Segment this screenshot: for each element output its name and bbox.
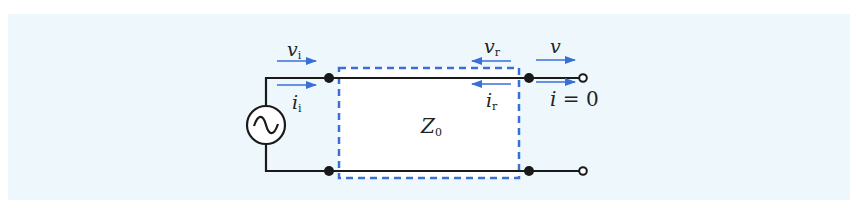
label-main: v bbox=[484, 35, 495, 57]
output-top-node bbox=[524, 73, 534, 83]
open-terminal-top bbox=[579, 74, 587, 82]
reflected-current-label: ir bbox=[486, 91, 497, 112]
label-main: Z bbox=[421, 114, 435, 138]
input-top-node bbox=[324, 73, 334, 83]
label-sub: 0 bbox=[435, 126, 442, 139]
incident-current-label: ii bbox=[292, 93, 302, 114]
ac-source-icon bbox=[247, 106, 285, 144]
reflected-voltage-label: vr bbox=[484, 37, 500, 58]
output-current-label: i = 0 bbox=[550, 89, 599, 109]
output-bottom-node bbox=[524, 166, 534, 176]
label-sub: r bbox=[495, 46, 500, 59]
output-voltage-label: v bbox=[550, 37, 561, 56]
characteristic-impedance-label: Z0 bbox=[421, 116, 442, 138]
label-sub: i bbox=[298, 49, 302, 62]
label-sub: r bbox=[492, 100, 497, 113]
label-main: v bbox=[287, 38, 298, 60]
incident-voltage-label: vi bbox=[287, 40, 301, 61]
label-sub: i bbox=[298, 102, 302, 115]
transmission-line-diagram bbox=[0, 0, 856, 217]
label-equation: = 0 bbox=[556, 87, 598, 111]
label-main: v bbox=[550, 35, 561, 57]
input-bottom-node bbox=[324, 166, 334, 176]
open-terminal-bottom bbox=[579, 167, 587, 175]
